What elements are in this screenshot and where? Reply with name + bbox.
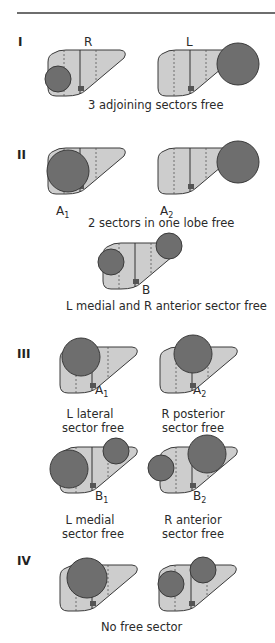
label-L: L xyxy=(186,35,193,49)
liver-diagram-III-A2 xyxy=(158,347,240,395)
liver-diagram-IV-1 xyxy=(58,565,140,613)
liver-diagram-III-B2 xyxy=(158,447,240,495)
liver-diagram-III-A1 xyxy=(58,347,140,395)
caption-IV: No free sector xyxy=(101,620,182,634)
group-label-II: II xyxy=(17,148,26,162)
group-label-I: I xyxy=(18,35,22,49)
label-R: R xyxy=(84,35,92,49)
liver-diagram-I-R xyxy=(46,50,128,98)
top-rule xyxy=(17,12,275,14)
liver-diagram-II-A2 xyxy=(156,148,238,196)
liver-diagram-IV-2 xyxy=(157,565,239,613)
caption-III-B2: R anteriorsector free xyxy=(160,513,226,541)
liver-diagram-III-B1 xyxy=(58,447,140,495)
label-II-A1: A1 xyxy=(56,204,69,220)
caption-III-B1: L medialsector free xyxy=(62,513,118,541)
caption-III-A1: L lateralsector free xyxy=(62,407,118,435)
liver-diagram-I-L xyxy=(156,50,238,98)
caption-II: 2 sectors in one lobe free xyxy=(88,216,234,230)
liver-diagram-II-A1 xyxy=(46,148,128,196)
group-label-IV: IV xyxy=(17,554,31,568)
liver-diagram-II-B xyxy=(101,243,183,291)
caption-I: 3 adjoining sectors free xyxy=(88,98,223,112)
caption-II-B: L medial and R anterior sector free xyxy=(66,299,267,313)
caption-III-A2: R posteriorsector free xyxy=(160,407,226,435)
group-label-III: III xyxy=(17,347,30,361)
